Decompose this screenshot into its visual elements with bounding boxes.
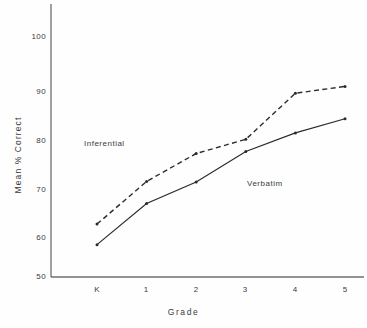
- data-point: [195, 180, 198, 183]
- annotation-verbatim: Verbatim: [247, 179, 283, 188]
- data-point: [294, 92, 297, 95]
- series-markers-inferential: [96, 85, 347, 226]
- data-point: [145, 180, 148, 183]
- data-point: [96, 223, 99, 226]
- chart-figure: Mean % Correct 100 90 80 70 60 50 K 1 2 …: [0, 0, 367, 328]
- data-point: [244, 150, 247, 153]
- data-point: [294, 131, 297, 134]
- data-point: [344, 85, 347, 88]
- data-point: [244, 138, 247, 141]
- data-point: [344, 117, 347, 120]
- annotation-inferential: Inferential: [84, 139, 125, 148]
- data-point: [145, 202, 148, 205]
- series-line-inferential: [97, 86, 345, 224]
- series-markers-verbatim: [96, 117, 347, 246]
- data-point: [195, 152, 198, 155]
- data-point: [96, 243, 99, 246]
- series-line-verbatim: [97, 119, 345, 245]
- plot-area: [0, 0, 367, 328]
